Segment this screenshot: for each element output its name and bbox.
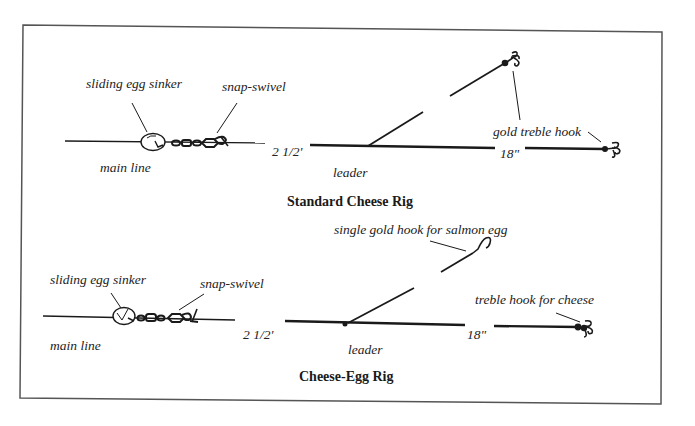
hook-pointer-upper [513,71,520,120]
swivel-pointer [179,294,204,310]
dropper-line-upper [450,63,505,96]
leader-line-end [525,148,604,149]
dropper-line [368,112,423,146]
treble-hook-icon [603,142,620,157]
hook-pointer-lower [588,132,601,142]
egg-hook-pointer [430,241,466,251]
sinker-pointer [111,293,121,308]
main-line-label: main line [100,161,151,175]
egg-hook-label: single gold hook for salmon egg [334,223,508,237]
leader-line [310,145,495,148]
main-length-label: 2 1/2' [272,145,302,159]
rig-title-cheese-egg: Cheese-Egg Rig [299,370,394,384]
main-line-label: main line [50,339,101,353]
swivel-label: snap-swivel [222,80,286,94]
swivel-pointer [217,103,237,133]
leader-length-label: 18" [467,328,486,342]
main-length-label: 2 1/2' [243,328,273,342]
leader-length-label: 18" [500,147,519,161]
leader-line [285,321,465,325]
egg-sinker-icon [141,134,165,151]
leader-line-end [494,326,578,327]
standard-cheese-rig [65,52,620,157]
fishing-rig-diagram [0,0,695,426]
egg-sinker-icon [113,308,135,325]
hook-label: gold treble hook [493,125,581,139]
treble-hook-icon [575,321,592,337]
cheese-egg-rig [43,238,592,337]
leader-knot [343,322,348,327]
dropper-line [348,288,414,323]
single-egg-hook-icon [473,238,491,253]
cheese-hook-pointer [556,313,580,322]
leader-label: leader [348,343,383,357]
treble-hook-upper-icon [503,52,520,66]
rig-title-standard-cheese: Standard Cheese Rig [287,195,413,209]
sinker-pointer [132,103,147,132]
snap-swivel-icon [138,309,199,322]
swivel-label: snap-swivel [200,277,264,291]
sinker-label: sliding egg sinker [86,77,182,91]
sinker-label: sliding egg sinker [50,273,146,287]
leader-label: leader [333,166,368,180]
dropper-line-upper [441,253,473,272]
cheese-hook-label: treble hook for cheese [475,293,594,307]
